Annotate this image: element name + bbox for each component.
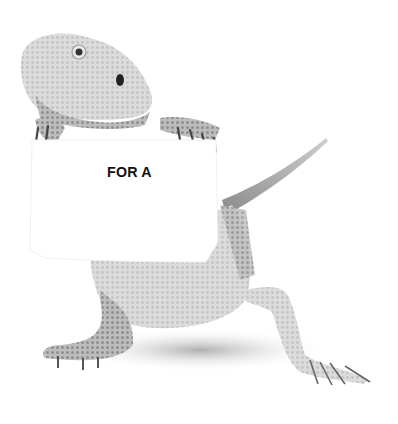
bearded-dragon-illustration: [0, 0, 398, 424]
front-right-arm: [160, 117, 220, 140]
ear-opening: [116, 74, 124, 86]
eye-pupil: [76, 49, 83, 56]
sign-text: FOR A: [107, 163, 152, 180]
photo-scene: FOR A: [0, 0, 398, 424]
sign-card: [30, 140, 218, 262]
tail: [222, 138, 328, 215]
